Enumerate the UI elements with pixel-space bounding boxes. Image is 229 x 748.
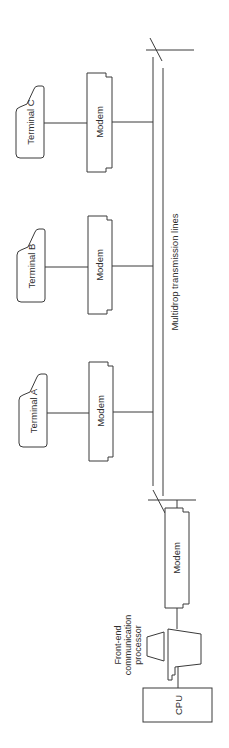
- modem-a-label: Modem: [95, 395, 106, 427]
- multidrop-network-diagram: Multidrop transmission lines Terminal C …: [0, 0, 229, 748]
- multidrop-bus: Multidrop transmission lines: [146, 38, 196, 513]
- modem-c-label: Modem: [94, 106, 105, 138]
- modem-host-label: Modem: [171, 542, 182, 574]
- terminal-c-branch: Terminal C Modem: [16, 73, 153, 172]
- processor-label-line-2: communication: [123, 615, 133, 676]
- bus-label: Multidrop transmission lines: [169, 213, 180, 330]
- processor-label-line-3: processor: [133, 625, 143, 665]
- front-end-processor: Front-end communication processor: [113, 615, 201, 680]
- terminal-a-label: Terminal A: [28, 388, 39, 433]
- terminal-b-branch: Terminal B Modem: [17, 216, 153, 314]
- processor-left-shape: [147, 632, 164, 661]
- host-side: Modem Front-end communication processor …: [113, 500, 212, 722]
- processor-label-line-1: Front-end: [113, 625, 123, 664]
- processor-main-shape: [168, 629, 201, 680]
- terminal-b-label: Terminal B: [26, 244, 37, 289]
- terminal-a-branch: Terminal A Modem: [19, 362, 153, 461]
- cpu-label: CPU: [173, 695, 184, 715]
- modem-b-label: Modem: [94, 249, 105, 281]
- terminal-c-label: Terminal C: [25, 99, 36, 145]
